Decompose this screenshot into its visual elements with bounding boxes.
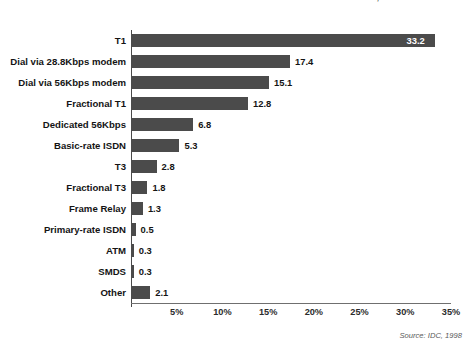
- bar: [131, 160, 157, 173]
- category-label: Primary-rate ISDN: [0, 219, 126, 240]
- x-tick-label: 5%: [170, 307, 183, 317]
- bar-value-label: 6.8: [198, 114, 211, 135]
- bar-row: T133.2: [0, 30, 471, 51]
- x-tick-label: 20%: [305, 307, 323, 317]
- bar-row: Frame Relay1.3: [0, 198, 471, 219]
- bar-value-label: 33.2: [407, 30, 425, 51]
- category-label: SMDS: [0, 261, 126, 282]
- bar-row: ATM0.3: [0, 240, 471, 261]
- x-tick-label: 25%: [350, 307, 368, 317]
- bar-row: Primary-rate ISDN0.5: [0, 219, 471, 240]
- bar-row: Basic-rate ISDN5.3: [0, 135, 471, 156]
- bar-row: T32.8: [0, 156, 471, 177]
- x-tick-label: 10%: [213, 307, 231, 317]
- bar-value-label: 17.4: [295, 51, 313, 72]
- bar-value-label: 0.5: [141, 219, 154, 240]
- bar: [131, 97, 248, 110]
- bar-row: Dial via 28.8Kbps modem17.4: [0, 51, 471, 72]
- bar-value-label: 0.3: [139, 261, 152, 282]
- category-label: Fractional T3: [0, 177, 126, 198]
- source-note: Source: IDC, 1998: [400, 331, 462, 340]
- bar: [131, 118, 193, 131]
- x-tick-label: 15%: [259, 307, 277, 317]
- bar: [131, 181, 147, 194]
- bar-value-label: 2.1: [155, 282, 168, 303]
- bar: [131, 202, 143, 215]
- category-label: Other: [0, 282, 126, 303]
- bar: [131, 55, 290, 68]
- bar: [131, 139, 179, 152]
- bar: [131, 223, 136, 236]
- bar-value-label: 1.3: [148, 198, 161, 219]
- category-label: T1: [0, 30, 126, 51]
- bar-row: Dedicated 56Kbps6.8: [0, 114, 471, 135]
- bar-value-label: 12.8: [253, 93, 271, 114]
- category-label: Frame Relay: [0, 198, 126, 219]
- bar: [131, 265, 134, 278]
- bar-row: Fractional T31.8: [0, 177, 471, 198]
- bar-value-label: 15.1: [274, 72, 292, 93]
- bar: [131, 34, 435, 47]
- bar-row: Fractional T112.8: [0, 93, 471, 114]
- bar: [131, 76, 269, 89]
- category-label: Dial via 28.8Kbps modem: [0, 51, 126, 72]
- category-label: ATM: [0, 240, 126, 261]
- category-label: T3: [0, 156, 126, 177]
- category-label: Dedicated 56Kbps: [0, 114, 126, 135]
- x-tick-label: 35%: [442, 307, 460, 317]
- x-tick-label: 30%: [396, 307, 414, 317]
- bar-row: SMDS0.3: [0, 261, 471, 282]
- bar-value-label: 1.8: [152, 177, 165, 198]
- x-axis-baseline: [131, 303, 451, 304]
- bar-row: Dial via 56Kbps modem15.1: [0, 72, 471, 93]
- category-label: Fractional T1: [0, 93, 126, 114]
- category-label: Basic-rate ISDN: [0, 135, 126, 156]
- bar: [131, 286, 150, 299]
- category-label: Dial via 56Kbps modem: [0, 72, 126, 93]
- bar-value-label: 0.3: [139, 240, 152, 261]
- bar-value-label: 2.8: [162, 156, 175, 177]
- bar: [131, 244, 134, 257]
- chart-title: FIGURE 20: REPRESENTATIVE INTERNET ACCES…: [4, 0, 467, 2]
- bar-row: Other2.1: [0, 282, 471, 303]
- bar-value-label: 5.3: [184, 135, 197, 156]
